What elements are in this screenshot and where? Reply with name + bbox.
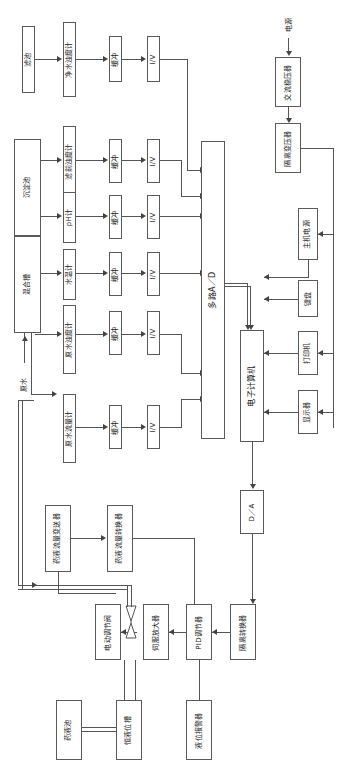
block-label: 缓冲 (112, 210, 119, 225)
block-clean-water-turbidity-meter: 净水浊度计 (63, 22, 76, 97)
block-label: 隔离转换器 (240, 614, 247, 651)
block-buffer-5: 缓冲 (109, 311, 122, 355)
block-host-power: 主机电源 (298, 208, 318, 260)
block-label: 显示器 (305, 401, 312, 423)
block-label: 净水浊度计 (66, 41, 73, 78)
block-label: 混合槽 (24, 274, 31, 296)
block-label: I/V (150, 269, 157, 279)
block-label: 药液池 (66, 719, 73, 741)
block-label: 缓冲 (112, 154, 119, 169)
block-printer: 打印机 (298, 331, 318, 375)
block-pre-filter-turbidity-meter: 滤前浊度计 (63, 126, 76, 196)
block-label: D／A (249, 503, 256, 521)
block-label: PID调节器 (196, 615, 203, 649)
block-label: 液位报警器 (196, 712, 203, 749)
block-keyboard: 键盘 (298, 280, 318, 317)
block-label: 隔离变压器 (285, 130, 292, 167)
block-label: 电动调节阀 (105, 614, 112, 651)
block-constant-level-tank: 恒液位槽 (116, 700, 142, 760)
block-servo-amplifier: 伺服放大器 (143, 604, 169, 660)
block-mixing-tank: 混合槽 (14, 236, 41, 333)
block-label: 电子计算机 (248, 365, 256, 407)
block-buffer-2: 缓冲 (109, 139, 122, 183)
block-isolation-converter: 隔离转换器 (230, 604, 256, 660)
block-label: I/V (150, 328, 157, 338)
block-buffer-6: 缓冲 (109, 405, 122, 449)
block-ph-meter: pH计 (63, 192, 76, 243)
block-level-alarm: 液位报警器 (186, 700, 212, 760)
block-label: 多路A／D (209, 271, 217, 308)
block-raw-water-turbidity-meter: 原水浊度计 (63, 305, 76, 374)
block-label: 键盘 (304, 291, 311, 306)
block-label: 滤池 (25, 52, 32, 67)
block-label: 交流稳压器 (285, 64, 292, 101)
block-water-temperature-meter: 水温计 (63, 249, 76, 300)
block-label: 打印机 (305, 342, 312, 364)
block-label: 伺服放大器 (153, 614, 160, 651)
block-label: 沉淀池 (24, 177, 31, 199)
block-electric-control-valve: 电动调节阀 (95, 604, 121, 660)
block-buffer-3: 缓冲 (109, 195, 122, 239)
block-label: 原水浊度计 (66, 321, 73, 358)
block-label: pH计 (66, 209, 73, 227)
block-multiplex-ad: 多路A／D (201, 141, 225, 439)
block-label: 缓冲 (112, 52, 119, 67)
block-label: 主机电源 (305, 219, 312, 248)
block-iv-converter-3: I/V (147, 195, 160, 239)
block-raw-water-flow-meter: 原水流量计 (63, 394, 76, 463)
block-iv-converter-5: I/V (147, 311, 160, 355)
block-buffer-4: 缓冲 (109, 252, 122, 296)
block-label: 滤前浊度计 (66, 143, 73, 180)
block-label: 原水流量计 (66, 410, 73, 447)
block-display: 显示器 (298, 390, 318, 434)
label-power-source: 电源 (281, 12, 295, 38)
block-label: I/V (150, 54, 157, 64)
label-raw-water: 原水 (16, 368, 30, 402)
block-iv-converter-6: I/V (147, 405, 160, 449)
block-da-converter: D／A (240, 490, 264, 534)
block-label: 缓冲 (112, 326, 119, 341)
block-iv-converter-4: I/V (147, 252, 160, 296)
block-label: I/V (150, 422, 157, 432)
block-label: 缓冲 (112, 267, 119, 282)
block-label: I/V (150, 212, 157, 222)
block-label: 药液流量转换器 (117, 513, 124, 564)
block-label: 药液流量变送器 (55, 513, 62, 564)
block-label: 恒液位槽 (126, 715, 133, 744)
block-label: 缓冲 (112, 420, 119, 435)
block-chemical-tank: 药液池 (56, 700, 82, 760)
block-label: I/V (150, 156, 157, 166)
block-iv-converter-2: I/V (147, 139, 160, 183)
block-filter-tank: 滤池 (22, 26, 35, 93)
block-dose-flow-converter: 药液流量转换器 (107, 505, 133, 572)
block-buffer-1: 缓冲 (109, 36, 122, 82)
block-pid-regulator: PID调节器 (186, 604, 212, 660)
diagram-canvas: 滤池 净水浊度计 缓冲 I/V 沉淀池 混合槽 原水 滤前浊度计 缓冲 (0, 0, 351, 772)
block-dose-flow-transmitter: 药液流量变送器 (45, 505, 71, 572)
block-computer: 电子计算机 (240, 330, 264, 442)
valve-symbol-icon (124, 604, 138, 640)
block-ac-voltage-stabilizer: 交流稳压器 (275, 57, 301, 107)
block-iv-converter-1: I/V (147, 36, 160, 82)
block-isolation-transformer: 隔离变压器 (275, 123, 301, 173)
block-label: 水温计 (66, 264, 73, 286)
block-sedimentation-tank: 沉淀池 (14, 139, 41, 236)
